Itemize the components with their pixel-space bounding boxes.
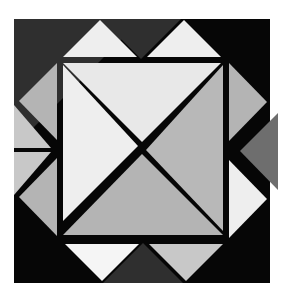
geometric-tangram-figure: Geometric Tangram Composition [0, 0, 283, 294]
shape-layer [14, 19, 278, 283]
artwork-canvas: Geometric Tangram Composition [0, 0, 283, 294]
